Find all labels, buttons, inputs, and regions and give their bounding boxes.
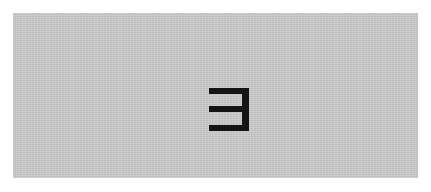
glyph-vertical-stroke [242, 88, 249, 131]
image-card: ヨ [13, 13, 418, 178]
reversed-e-glyph-icon: ヨ [209, 87, 249, 132]
